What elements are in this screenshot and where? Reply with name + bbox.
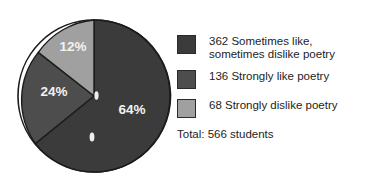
legend-swatch-icon-strongly-like-poetry [177,70,196,89]
pie-label-64-percent: 64% [118,102,145,117]
pie-chart-screenshot: 64% 24% 12% 362 Sometimes like, sometime… [0,0,380,191]
pie-chart-svg: 64% 24% 12% [16,18,172,174]
legend-swatch-icon-strongly-dislike-poetry [177,99,196,118]
legend-total-label: Total: 566 students [177,128,377,140]
pie-speck-center [94,91,98,99]
pie-chart-figure: 64% 24% 12% [16,18,172,174]
chart-legend: 362 Sometimes like, sometimes dislike po… [177,34,377,140]
legend-label-strongly-dislike-poetry: 68 Strongly dislike poetry [209,98,337,112]
legend-item-strongly-dislike-poetry[interactable]: 68 Strongly dislike poetry [177,98,377,118]
legend-item-sometimes-like-sometimes-dislike-poetry[interactable]: 362 Sometimes like, sometimes dislike po… [177,34,377,60]
pie-label-24-percent: 24% [40,84,67,99]
legend-item-strongly-like-poetry[interactable]: 136 Strongly like poetry [177,69,377,89]
legend-swatch-icon-sometimes-like-sometimes-dislike-poetry [177,35,196,54]
pie-label-12-percent: 12% [59,39,86,54]
legend-label-strongly-like-poetry: 136 Strongly like poetry [209,69,329,83]
legend-label-sometimes-like-sometimes-dislike-poetry: 362 Sometimes like, sometimes dislike po… [209,34,335,60]
pie-speck-lower [90,132,95,141]
